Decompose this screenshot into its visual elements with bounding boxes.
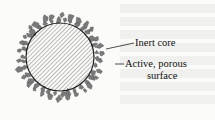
inert-core (26, 23, 94, 91)
inert-core-label: Inert core (135, 37, 176, 48)
active-surface-label-line1: Active, porous (125, 58, 187, 69)
core-leader-line (106, 43, 134, 49)
active-surface-label-line2: surface (147, 70, 177, 81)
